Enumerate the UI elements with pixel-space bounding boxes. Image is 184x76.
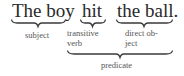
label-transitive: transitive: [67, 29, 99, 38]
word-verb: hit: [82, 1, 102, 20]
brace-verb-icon: [80, 19, 106, 27]
word-object: the ball.: [117, 1, 178, 20]
brace-subject-icon: [11, 19, 66, 27]
label-direct-object: direct ob-: [125, 29, 158, 38]
word-subject: The boy: [12, 1, 75, 20]
label-direct-object-cont: ject: [125, 39, 137, 48]
label-verb: verb: [67, 39, 82, 48]
brace-predicate-icon: [67, 50, 173, 58]
label-predicate: predicate: [101, 61, 132, 70]
brace-object-icon: [116, 19, 173, 27]
label-subject: subject: [25, 31, 49, 40]
